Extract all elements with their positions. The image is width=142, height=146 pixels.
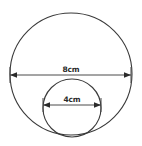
diagram-canvas: 8cm 4cm xyxy=(0,0,142,146)
circles-figure: 8cm 4cm xyxy=(0,0,142,146)
outer-diameter-label: 8cm xyxy=(63,65,80,74)
inner-diameter-label: 4cm xyxy=(64,95,81,104)
